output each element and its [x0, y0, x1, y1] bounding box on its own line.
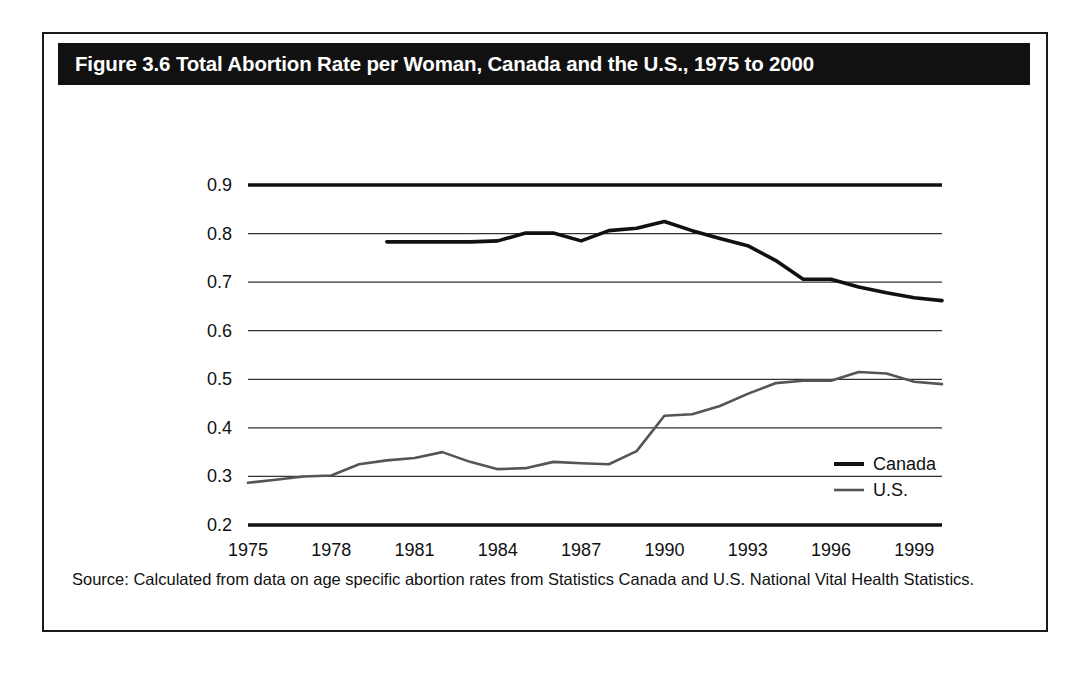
x-tick-label: 1993 — [728, 540, 768, 560]
y-tick-label: 0.5 — [207, 369, 232, 389]
x-axis-tick-labels: 197519781981198419871990199319961999 — [228, 540, 934, 560]
y-tick-label: 0.8 — [207, 224, 232, 244]
source-note: Source: Calculated from data on age spec… — [72, 568, 1022, 591]
legend-label-canada: Canada — [873, 454, 937, 474]
y-tick-label: 0.7 — [207, 272, 232, 292]
line-chart-svg: 0.90.80.70.60.50.40.30.2 197519781981198… — [44, 94, 1046, 564]
figure-frame: Figure 3.6 Total Abortion Rate per Woman… — [42, 32, 1048, 632]
x-tick-label: 1999 — [894, 540, 934, 560]
data-series-group — [248, 221, 942, 482]
y-tick-label: 0.2 — [207, 515, 232, 535]
figure-title: Figure 3.6 Total Abortion Rate per Woman… — [75, 52, 814, 76]
x-tick-label: 1984 — [478, 540, 518, 560]
y-tick-label: 0.3 — [207, 466, 232, 486]
x-tick-label: 1990 — [644, 540, 684, 560]
y-tick-label: 0.6 — [207, 321, 232, 341]
chart-plot-area: 0.90.80.70.60.50.40.30.2 197519781981198… — [44, 94, 1046, 564]
legend-label-us: U.S. — [873, 480, 908, 500]
figure-title-bar: Figure 3.6 Total Abortion Rate per Woman… — [58, 43, 1030, 85]
y-tick-label: 0.4 — [207, 418, 232, 438]
x-tick-label: 1975 — [228, 540, 268, 560]
y-tick-label: 0.9 — [207, 175, 232, 195]
x-tick-label: 1978 — [311, 540, 351, 560]
x-tick-label: 1996 — [811, 540, 851, 560]
x-tick-label: 1981 — [395, 540, 435, 560]
x-tick-label: 1987 — [561, 540, 601, 560]
y-axis-tick-labels: 0.90.80.70.60.50.40.30.2 — [207, 175, 232, 535]
